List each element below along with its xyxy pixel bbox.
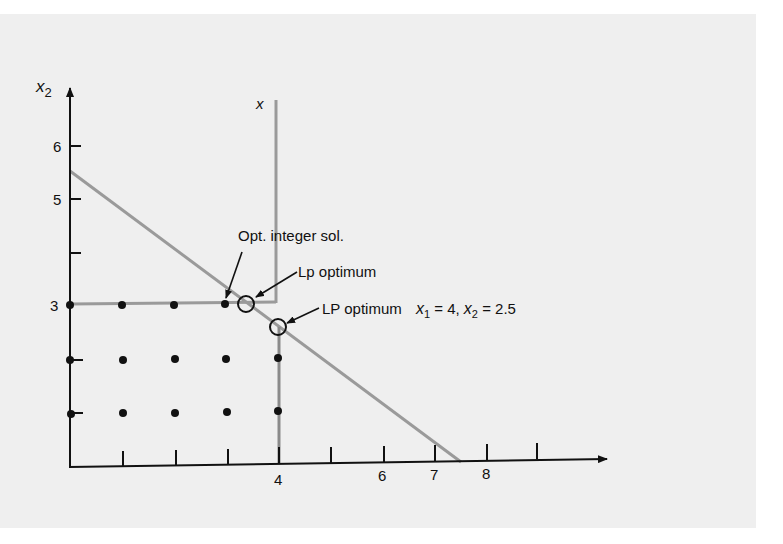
lp-optimum-upper-circle (238, 296, 254, 312)
integer-points (66, 300, 282, 418)
lp-x1-value: = 4, (430, 300, 464, 317)
y-tick-label-3: 3 (50, 297, 58, 314)
x-tick-label-8: 8 (482, 465, 490, 482)
x-tick-label-4: 4 (274, 471, 282, 488)
point-3-1 (223, 408, 231, 416)
lp-optimum-lower-arrow (287, 308, 319, 323)
lp-optimum-lower-text: LP optimum (322, 300, 402, 317)
point-2-3 (170, 301, 178, 309)
x-axis (69, 459, 607, 467)
lp-x2-value: = 2.5 (478, 300, 516, 317)
opt-integer-label: Opt. integer sol. (238, 227, 344, 244)
point-3-3 (221, 300, 229, 308)
constraint-lines (70, 100, 461, 464)
point-2-1 (171, 409, 179, 417)
lp-optimum-lower-label: LP optimum x1 = 4, x2 = 2.5 (322, 300, 516, 320)
vertical-line-label: x (255, 95, 264, 112)
y-tick-label-6: 6 (53, 138, 61, 155)
opt-integer-arrow (226, 252, 242, 298)
y-axis-label: x2 (35, 77, 52, 100)
point-1-2 (119, 356, 127, 364)
lp-branch-diagram: x2 x 3 5 6 4 6 7 8 Opt. integer sol. Lp … (0, 0, 783, 544)
point-0-1 (67, 410, 75, 418)
point-1-3 (118, 301, 126, 309)
point-3-2 (222, 355, 230, 363)
point-0-2 (66, 356, 74, 364)
point-0-3 (66, 301, 74, 309)
y-tick-label-5: 5 (53, 191, 61, 208)
lp-optimum-upper-label: Lp optimum (298, 263, 376, 280)
x-tick-label-7: 7 (430, 466, 438, 483)
point-1-1 (119, 409, 127, 417)
point-4-1 (274, 407, 282, 415)
point-4-2 (274, 354, 282, 362)
point-2-2 (171, 355, 179, 363)
x-tick-label-6: 6 (378, 467, 386, 484)
